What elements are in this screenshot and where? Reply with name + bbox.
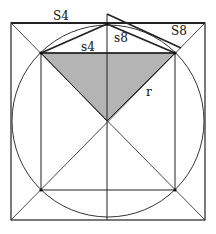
label-r: r [146,85,152,99]
vertex-bottom-right [173,188,176,191]
label-s8: s8 [114,31,128,45]
inscribed-octagon-side-left [41,24,107,53]
vertex-bottom-left [39,188,42,191]
vertex-top-left [39,51,42,54]
polygon-circle-diagram: S4 s4 s8 S8 r [0,0,216,234]
vertex-top-center [106,23,109,26]
label-S4: S4 [53,9,69,23]
label-s4: s4 [81,40,95,54]
shaded-triangle [41,53,175,121]
label-S8: S8 [171,24,187,38]
vertex-top-right [173,51,176,54]
